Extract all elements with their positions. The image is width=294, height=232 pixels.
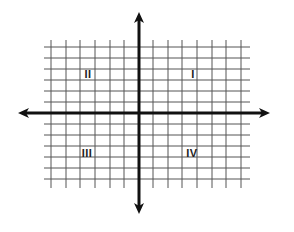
quadrant-label-iv: IV (186, 147, 198, 159)
coordinate-plane: I II III IV (0, 0, 294, 232)
quadrant-label-iii: III (82, 147, 93, 159)
x-axis (18, 108, 270, 118)
quadrant-label-ii: II (84, 68, 91, 80)
quadrant-label-i: I (191, 68, 195, 80)
